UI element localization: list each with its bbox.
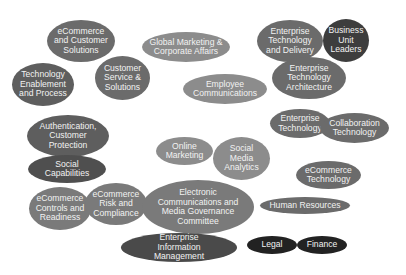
node-electronic-communications: Electronic Communications and Media Gove… — [142, 180, 254, 234]
node-finance: Finance — [297, 236, 347, 254]
node-label: Global Marketing & Corporate Affairs — [149, 38, 222, 57]
node-label: Electronic Communications and Media Gove… — [158, 188, 239, 226]
node-enterprise-tech-delivery: Enterprise Technology and Delivery — [257, 20, 323, 62]
node-authentication: Authentication, Customer Protection — [27, 115, 109, 157]
node-label: Enterprise Technology and Delivery — [266, 27, 314, 56]
node-social-capabilities: Social Capabilities — [28, 155, 106, 183]
node-legal: Legal — [247, 236, 297, 254]
node-label: Enterprise Technology Architecture — [286, 64, 332, 93]
node-label: Customer Service & Solutions — [104, 64, 141, 93]
node-tech-enablement: Technology Enablement and Process — [12, 63, 74, 106]
node-online-marketing: Online Marketing — [156, 137, 213, 165]
node-global-marketing: Global Marketing & Corporate Affairs — [142, 32, 230, 62]
node-label: eCommerce Technology — [305, 166, 352, 185]
node-ecommerce-customer-solutions: eCommerce and Customer Solutions — [47, 20, 115, 62]
node-business-unit-leaders: Business Unit Leaders — [323, 19, 369, 62]
node-social-media-analytics: Social Media Analytics — [213, 137, 270, 180]
node-enterprise-tech-architecture: Enterprise Technology Architecture — [272, 57, 346, 99]
node-label: Legal — [261, 240, 282, 250]
node-human-resources: Human Resources — [260, 197, 350, 214]
node-label: Employee Communications — [193, 80, 257, 99]
node-label: Finance — [307, 240, 338, 250]
node-collaboration-technology: Collaboration Technology — [320, 113, 389, 143]
node-ecommerce-controls: eCommerce Controls and Readiness — [29, 187, 91, 230]
node-ecommerce-technology: eCommerce Technology — [296, 161, 361, 189]
node-label: Technology Enablement and Process — [19, 70, 67, 99]
node-label: eCommerce Risk and Compliance — [93, 190, 140, 219]
node-label: Authentication, Customer Protection — [40, 122, 97, 151]
node-label: Online Marketing — [166, 142, 204, 161]
node-label: Enterprise Technology — [278, 114, 321, 133]
node-label: Human Resources — [269, 201, 340, 211]
node-customer-service: Customer Service & Solutions — [95, 56, 150, 100]
node-label: eCommerce and Customer Solutions — [54, 27, 108, 56]
node-label: Social Media Analytics — [224, 144, 258, 173]
node-ecommerce-risk: eCommerce Risk and Compliance — [85, 183, 147, 225]
node-label: Collaboration Technology — [329, 119, 380, 138]
node-label: Enterprise Information Management — [154, 233, 204, 262]
node-enterprise-info-mgmt: Enterprise Information Management — [121, 233, 237, 262]
node-label: Business Unit Leaders — [329, 26, 364, 55]
node-employee-communications: Employee Communications — [183, 74, 267, 104]
node-label: Social Capabilities — [45, 160, 89, 179]
node-label: eCommerce Controls and Readiness — [36, 194, 85, 223]
